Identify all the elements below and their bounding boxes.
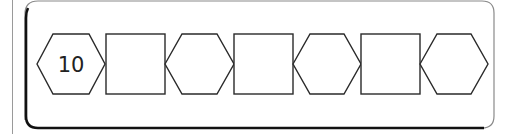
sequence-value-1: 10	[58, 53, 85, 77]
sequence-cell-4-square[interactable]	[234, 34, 293, 94]
sequence-cell-2-square[interactable]	[106, 34, 165, 94]
number-sequence-worksheet: 10	[0, 0, 507, 134]
sequence-cell-3-hexagon[interactable]	[165, 34, 234, 94]
sequence-cell-1-hexagon: 10	[37, 34, 105, 94]
sequence-cell-7-hexagon[interactable]	[420, 34, 488, 94]
sequence-cell-5-hexagon[interactable]	[293, 34, 361, 94]
sequence-cell-6-square[interactable]	[361, 34, 420, 94]
